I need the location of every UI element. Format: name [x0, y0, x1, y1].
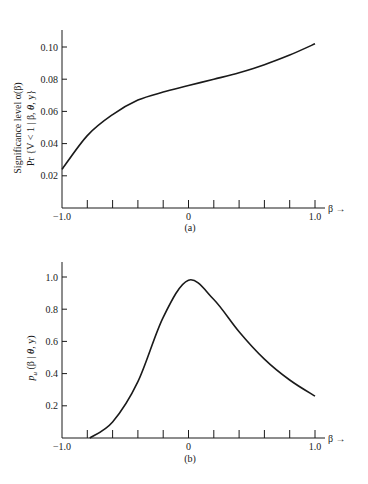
panel-a-caption: (a) [184, 222, 195, 234]
x-tick-label: 0 [186, 211, 191, 222]
chart-panel-b: 0.20.40.60.81.0−1.001.0 [46, 262, 326, 452]
y-tick-label: 1.0 [46, 272, 59, 283]
panel-b-x-axis-label: β → [328, 433, 346, 444]
figure: 0.020.040.060.080.10−1.001.0 0.20.40.60.… [0, 0, 368, 484]
y-tick-label: 0.8 [46, 304, 59, 315]
data-curve [90, 280, 315, 438]
panel-a-y-axis-label-line2: Pr {V < 1 | β, θ, y} [25, 90, 36, 166]
x-tick-label: 1.0 [309, 211, 322, 222]
y-tick-label: 0.10 [41, 42, 59, 53]
panel-a-x-axis-label: β → [328, 203, 346, 214]
panel-a-y-axis-label-line1: Significance level α(β) [12, 82, 24, 173]
y-tick-label: 0.6 [46, 336, 59, 347]
data-curve [62, 44, 315, 170]
y-tick-label: 0.06 [41, 106, 59, 117]
y-tick-label: 0.2 [46, 400, 59, 411]
y-tick-label: 0.4 [46, 368, 59, 379]
x-tick-label: −1.0 [53, 441, 71, 452]
x-tick-label: −1.0 [53, 211, 71, 222]
chart-panel-a: 0.020.040.060.080.10−1.001.0 [41, 30, 326, 222]
panel-b-caption: (b) [184, 453, 196, 465]
y-tick-label: 0.08 [41, 74, 59, 85]
y-tick-label: 0.02 [41, 170, 59, 181]
panel-b-y-axis-label: pu (β | θ, y) [25, 336, 39, 382]
x-tick-label: 1.0 [309, 441, 322, 452]
y-tick-label: 0.04 [41, 138, 59, 149]
x-tick-label: 0 [186, 441, 191, 452]
